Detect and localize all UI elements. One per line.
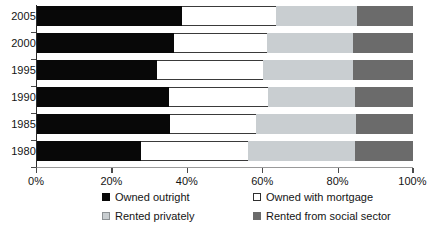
x-axis-tick	[338, 168, 339, 173]
bar-segment-rented-privately	[248, 141, 355, 161]
x-axis-tick	[111, 168, 112, 173]
x-axis-label-80: 80%	[327, 175, 349, 187]
bar-row-2005	[36, 6, 413, 26]
bar-row-2000	[36, 33, 413, 53]
legend-swatch-icon	[253, 193, 261, 201]
bar-segment-rented-privately	[276, 6, 357, 26]
bar-row-1995	[36, 60, 413, 80]
y-axis: 2005 2000 1995 1990 1985 1980	[0, 0, 36, 180]
x-axis-label-100: 100%	[398, 175, 426, 187]
x-axis-tick	[412, 168, 413, 173]
bar-segment-owned-outright	[36, 141, 141, 161]
legend-swatch-icon	[253, 212, 261, 220]
legend-item-rented-privately: Rented privately	[102, 210, 195, 222]
y-axis-label-1980: 1980	[2, 146, 36, 157]
stacked-bar-chart: 2005 2000 1995 1990 1985 1980	[0, 0, 441, 233]
bar-row-1990	[36, 87, 413, 107]
legend-label: Owned outright	[115, 191, 190, 203]
bar-segment-owned-outright	[36, 87, 169, 107]
bar-segment-rented-privately	[268, 87, 355, 107]
bar-segment-owned-with-mortgage	[169, 87, 268, 107]
x-axis-label-40: 40%	[176, 175, 198, 187]
bar-segment-rented-from-social-sector	[355, 141, 413, 161]
bar-segment-owned-outright	[36, 6, 182, 26]
bar-segment-owned-outright	[36, 114, 170, 134]
bar-row-1985	[36, 114, 413, 134]
bar-segment-rented-from-social-sector	[357, 6, 413, 26]
y-axis-label-1990: 1990	[2, 92, 36, 103]
bar-segment-rented-from-social-sector	[356, 114, 413, 134]
x-axis-label-60: 60%	[251, 175, 273, 187]
x-axis: 0% 20% 40% 60% 80% 100%	[36, 168, 413, 192]
bar-segment-owned-outright	[36, 33, 174, 53]
legend-item-owned-outright: Owned outright	[102, 191, 190, 203]
x-axis-tick	[36, 168, 37, 173]
legend-label: Rented from social sector	[266, 210, 391, 222]
y-axis-label-2000: 2000	[2, 38, 36, 49]
bar-segment-owned-with-mortgage	[157, 60, 263, 80]
legend-label: Rented privately	[115, 210, 195, 222]
plot-area	[36, 5, 413, 168]
x-axis-label-0: 0%	[28, 175, 44, 187]
legend-item-rented-from-social-sector: Rented from social sector	[253, 210, 391, 222]
legend-swatch-icon	[102, 193, 110, 201]
x-axis-tick	[262, 168, 263, 173]
bar-row-1980	[36, 141, 413, 161]
chart-legend: Owned outright Owned with mortgage Rente…	[0, 191, 441, 233]
bar-segment-rented-from-social-sector	[355, 87, 413, 107]
bar-segment-owned-with-mortgage	[141, 141, 248, 161]
legend-item-owned-with-mortgage: Owned with mortgage	[253, 191, 373, 203]
x-axis-label-20: 20%	[100, 175, 122, 187]
legend-label: Owned with mortgage	[266, 191, 373, 203]
bar-segment-rented-from-social-sector	[353, 60, 413, 80]
bar-segment-owned-with-mortgage	[170, 114, 256, 134]
y-axis-label-2005: 2005	[2, 11, 36, 22]
bar-segment-owned-outright	[36, 60, 157, 80]
y-axis-label-1985: 1985	[2, 119, 36, 130]
bar-segment-owned-with-mortgage	[182, 6, 277, 26]
bar-segment-rented-privately	[256, 114, 356, 134]
bar-segment-rented-privately	[263, 60, 353, 80]
bar-segment-owned-with-mortgage	[174, 33, 267, 53]
bar-segment-rented-from-social-sector	[353, 33, 413, 53]
bar-segment-rented-privately	[267, 33, 353, 53]
x-axis-tick	[187, 168, 188, 173]
y-axis-label-1995: 1995	[2, 65, 36, 76]
legend-swatch-icon	[102, 212, 110, 220]
